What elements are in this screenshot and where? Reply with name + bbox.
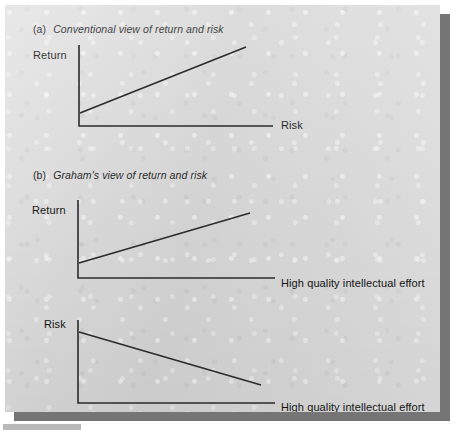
chart-b-return-line — [79, 213, 250, 263]
charts-svg-layer — [0, 0, 465, 437]
scan-artifact-bar — [3, 424, 81, 430]
chart-b-risk-line — [79, 332, 261, 385]
chart-b-return-axes — [78, 200, 275, 278]
chart-b-risk-axes — [78, 320, 275, 403]
panel-drop-shadow-bottom — [14, 412, 450, 421]
chart-a — [79, 45, 273, 126]
chart-a-axes — [79, 45, 273, 126]
chart-a-return-line — [80, 47, 246, 113]
chart-b-risk — [78, 320, 275, 403]
panel-drop-shadow-right — [440, 14, 450, 421]
chart-b-return — [78, 200, 275, 278]
